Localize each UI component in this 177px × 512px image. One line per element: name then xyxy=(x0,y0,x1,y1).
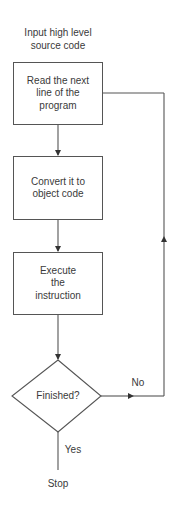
step-read-line: Read the next line of the program xyxy=(13,62,103,125)
step-execute-label: Execute the instruction xyxy=(35,265,81,303)
step-execute: Execute the instruction xyxy=(13,252,103,315)
flowchart-diagram: Input high level source code Read the ne… xyxy=(0,0,177,512)
end-label: Stop xyxy=(44,478,72,491)
no-branch-label: No xyxy=(128,377,148,390)
yes-branch-label: Yes xyxy=(63,444,83,457)
step-convert: Convert it to object code xyxy=(13,156,103,220)
start-label: Input high level source code xyxy=(7,27,109,52)
decision-label: Finished? xyxy=(28,390,88,403)
step-convert-label: Convert it to object code xyxy=(31,176,85,201)
step-read-line-label: Read the next line of the program xyxy=(27,75,89,113)
